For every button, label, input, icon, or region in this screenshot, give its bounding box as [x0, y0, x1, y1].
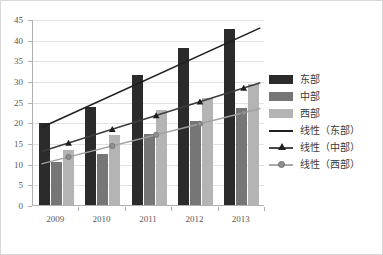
circle-marker-icon [278, 161, 285, 168]
bar-west-2013 [248, 84, 259, 205]
bar-west-2009 [63, 150, 74, 205]
legend-swatch-west [269, 109, 293, 118]
trend-marker-triangle [240, 85, 247, 91]
legend-line-west [269, 159, 293, 170]
y-tick-label: 40 [1, 37, 23, 46]
legend-line-stroke [269, 130, 293, 132]
legend-item-1[interactable]: 东部 [269, 71, 381, 88]
x-tick-label-2010: 2010 [79, 215, 125, 224]
chart-legend: 东部中部西部线性（东部）线性（中部）线性（西部） [269, 71, 381, 173]
bar-west-2012 [202, 98, 213, 205]
legend-label: 西部 [300, 108, 320, 119]
legend-label: 线性（东部） [300, 125, 360, 136]
legend-label: 东部 [300, 74, 320, 85]
chart-container: 051015202530354045 20092010201120122013 … [0, 0, 383, 255]
x-tick-label-2013: 2013 [218, 215, 264, 224]
y-tick-label: 20 [1, 119, 23, 128]
bar-east-2009 [39, 123, 50, 205]
legend-line-central [269, 142, 293, 153]
bar-central-2010 [97, 154, 108, 205]
legend-label: 中部 [300, 91, 320, 102]
x-tick-mark [78, 207, 79, 211]
bar-east-2013 [224, 29, 235, 205]
y-tick-label: 5 [1, 181, 23, 190]
bar-west-2010 [109, 135, 120, 205]
y-tick-label: 15 [1, 140, 23, 149]
legend-item-4[interactable]: 线性（东部） [269, 122, 381, 139]
y-tick-label: 0 [1, 202, 23, 211]
bar-central-2009 [51, 162, 62, 205]
y-axis: 051015202530354045 [1, 1, 32, 207]
x-tick-mark [125, 207, 126, 211]
bar-central-2013 [236, 108, 247, 205]
x-tick-label-2011: 2011 [125, 215, 171, 224]
triangle-marker-icon [278, 143, 286, 150]
legend-swatch-central [269, 92, 293, 101]
bar-east-2010 [85, 107, 96, 205]
bar-central-2011 [144, 134, 155, 205]
plot-area [32, 20, 264, 206]
legend-label: 线性（中部） [300, 142, 360, 153]
legend-item-3[interactable]: 西部 [269, 105, 381, 122]
legend-item-5[interactable]: 线性（中部） [269, 139, 381, 156]
bar-east-2011 [132, 75, 143, 205]
y-tick-label: 25 [1, 99, 23, 108]
x-tick-label-2012: 2012 [171, 215, 217, 224]
y-tick-label: 30 [1, 78, 23, 87]
x-tick-mark [218, 207, 219, 211]
legend-item-2[interactable]: 中部 [269, 88, 381, 105]
legend-label: 线性（西部） [300, 159, 360, 170]
y-tick-label: 45 [1, 16, 23, 25]
x-tick-mark [171, 207, 172, 211]
bar-west-2011 [156, 110, 167, 205]
legend-swatch-east [269, 75, 293, 84]
y-tick-label: 10 [1, 161, 23, 170]
trend-marker-triangle [109, 126, 116, 132]
x-tick-mark [264, 207, 265, 211]
bar-central-2012 [190, 121, 201, 205]
legend-line-east [269, 125, 293, 136]
x-axis: 20092010201120122013 [32, 207, 264, 231]
legend-item-6[interactable]: 线性（西部） [269, 156, 381, 173]
y-tick-label: 35 [1, 57, 23, 66]
bar-east-2012 [178, 48, 189, 205]
x-tick-label-2009: 2009 [32, 215, 78, 224]
gridline [33, 20, 264, 21]
